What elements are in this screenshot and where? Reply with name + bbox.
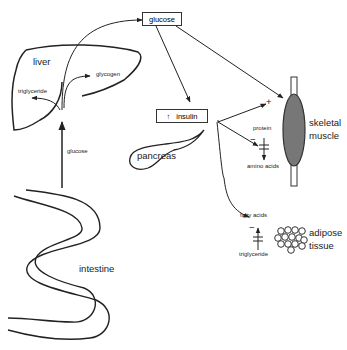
plus-sign: + bbox=[266, 97, 272, 107]
glucose-box: glucose bbox=[142, 12, 182, 26]
glucose-to-muscle-arrow bbox=[176, 26, 283, 98]
liver-triglyceride-label: triglyceride bbox=[18, 88, 47, 94]
glucose-to-insulin-arrow bbox=[156, 26, 190, 102]
adipose-triglyceride-label: triglyceride bbox=[239, 251, 268, 257]
insulin-box: ↑ insulin bbox=[156, 109, 208, 123]
pancreas-label: pancreas bbox=[137, 151, 176, 161]
liver-label: liver bbox=[33, 57, 50, 67]
insulin-label: insulin bbox=[176, 112, 197, 121]
diagram-canvas bbox=[0, 0, 347, 350]
minus-sign-protein: − bbox=[250, 135, 256, 145]
adipose-label: adipose bbox=[309, 228, 342, 238]
skeletal-label: skeletal bbox=[309, 118, 341, 128]
skeletal-muscle-shape bbox=[283, 77, 305, 186]
intestine-label: intestine bbox=[79, 264, 114, 274]
increase-arrow-icon: ↑ bbox=[166, 112, 170, 121]
insulin-to-muscle-plus-arrow bbox=[218, 104, 266, 122]
muscle-label: muscle bbox=[309, 131, 339, 141]
minus-sign-fat: − bbox=[249, 223, 255, 233]
adipose-cells bbox=[275, 227, 308, 254]
fatty-acids-label: fatty acids bbox=[240, 212, 267, 218]
glucose-box-label: glucose bbox=[149, 15, 175, 24]
amino-acids-label: amino acids bbox=[247, 163, 279, 169]
liver-to-triglyceride-arrow bbox=[32, 98, 60, 110]
liver-to-glucose-arrow bbox=[62, 20, 142, 110]
glycogen-label: glycogen bbox=[96, 71, 120, 77]
insulin-effect-stem bbox=[217, 120, 249, 217]
liver-to-glycogen-arrow bbox=[64, 76, 90, 108]
glucose-absorbed-label: glucose bbox=[67, 148, 88, 154]
tissue-label: tissue bbox=[309, 241, 334, 251]
protein-label: protein bbox=[253, 125, 271, 131]
